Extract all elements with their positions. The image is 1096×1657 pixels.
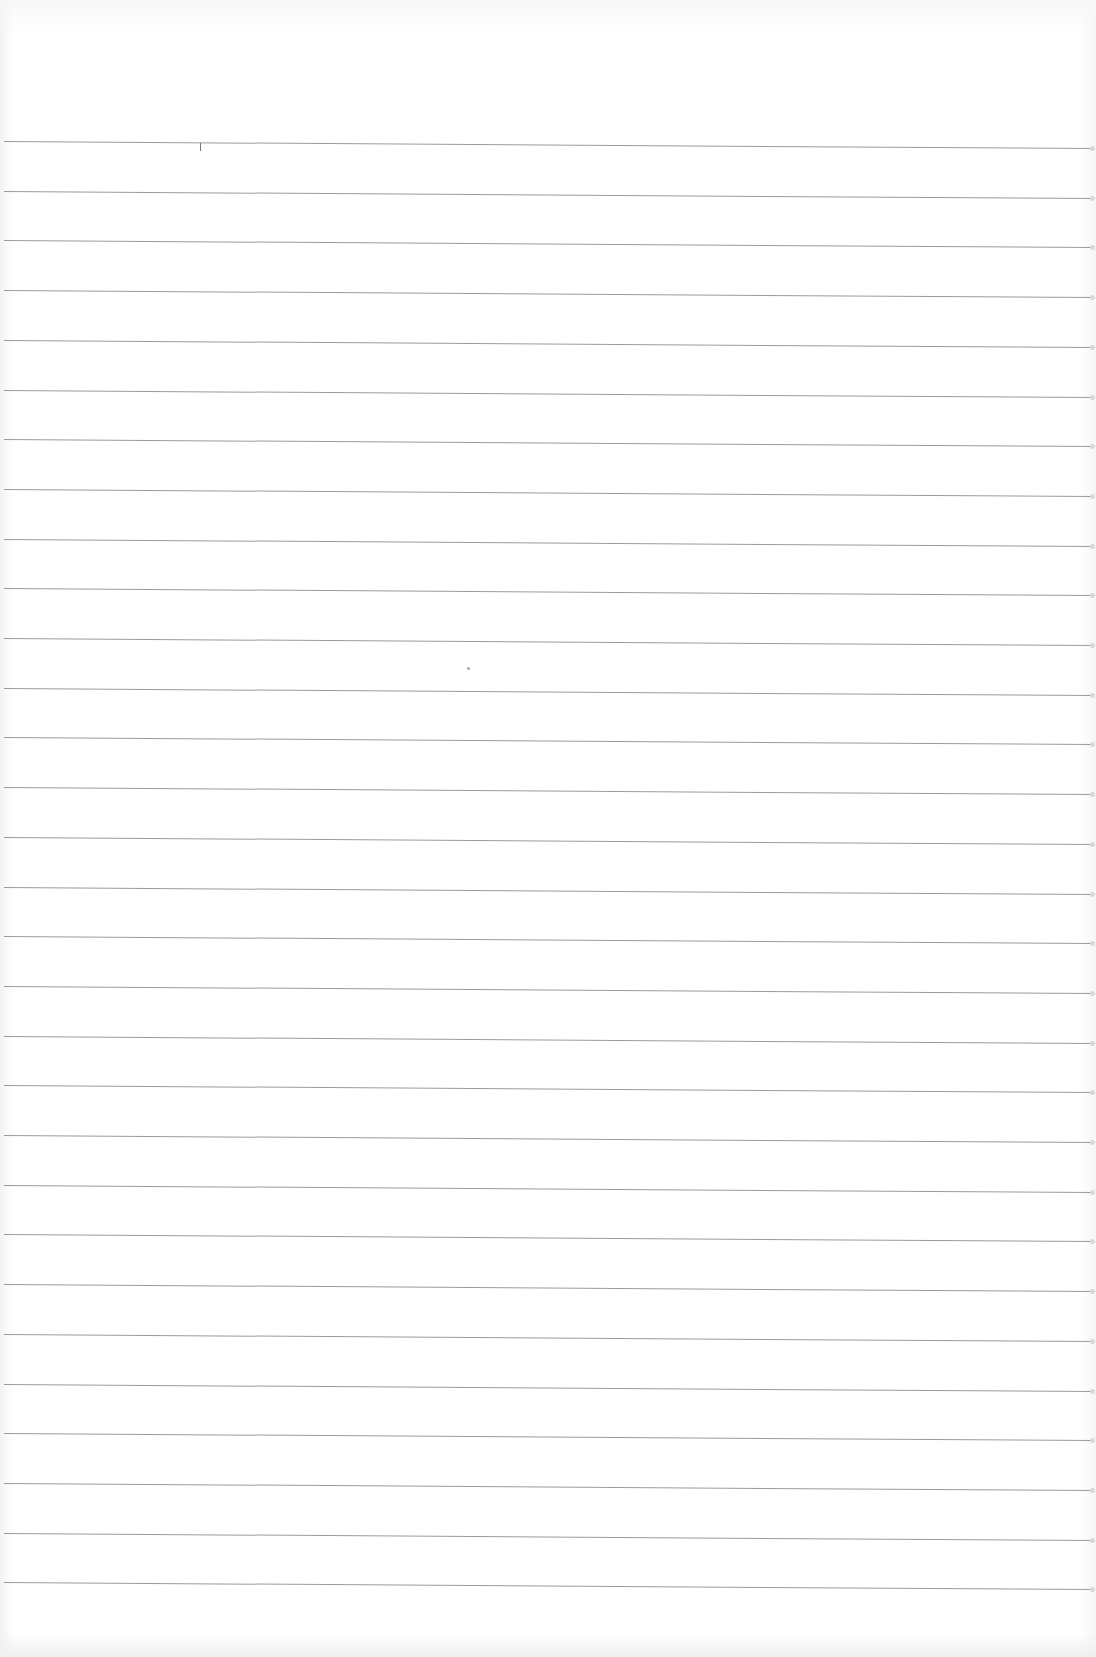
ruled-line <box>4 489 1094 497</box>
ruled-line-end-mark <box>1090 742 1095 747</box>
ruled-line-end-mark <box>1090 444 1095 449</box>
ruled-line <box>4 986 1094 994</box>
ruled-line <box>4 737 1094 745</box>
ruled-line <box>4 1085 1094 1093</box>
scan-bottom-shadow <box>0 1633 1096 1657</box>
ruled-line-end-mark <box>1090 693 1095 698</box>
ruled-line <box>4 439 1094 447</box>
ruled-line <box>4 688 1094 696</box>
ruled-line <box>4 1234 1094 1242</box>
ruled-line <box>4 1284 1094 1292</box>
ruled-line <box>4 191 1094 199</box>
ruled-line-end-mark <box>1090 1041 1095 1046</box>
ruled-line-end-mark <box>1090 991 1095 996</box>
ruled-line <box>4 1433 1094 1441</box>
ruled-line <box>4 240 1094 248</box>
ruled-line <box>4 539 1094 547</box>
ruled-line <box>4 1185 1094 1193</box>
ruled-line <box>4 936 1094 944</box>
ruled-line-end-mark <box>1090 842 1095 847</box>
ruled-line <box>4 837 1094 845</box>
scan-top-shadow <box>0 0 1096 30</box>
ruled-line <box>4 1135 1094 1143</box>
ruled-line-end-mark <box>1090 295 1095 300</box>
ruled-line <box>4 141 1094 149</box>
ruled-line-end-mark <box>1090 941 1095 946</box>
ruled-line <box>4 390 1094 398</box>
paper-speck <box>467 667 470 670</box>
ruled-line <box>4 887 1094 895</box>
ruled-line-end-mark <box>1090 1239 1095 1244</box>
ruled-line <box>4 588 1094 596</box>
pencil-tick-mark <box>200 143 201 151</box>
ruled-line <box>4 1384 1094 1392</box>
ruled-line-end-mark <box>1090 593 1095 598</box>
ruled-line <box>4 1483 1094 1491</box>
ruled-line-end-mark <box>1090 544 1095 549</box>
ruled-line-end-mark <box>1090 494 1095 499</box>
ruled-line <box>4 1582 1094 1590</box>
ruled-line-end-mark <box>1090 1289 1095 1294</box>
ruled-line <box>4 340 1094 348</box>
lined-paper-page <box>0 0 1096 1657</box>
ruled-line <box>4 290 1094 298</box>
ruled-line-end-mark <box>1090 643 1095 648</box>
ruled-line-end-mark <box>1090 1339 1095 1344</box>
ruled-line-end-mark <box>1090 1488 1095 1493</box>
ruled-line-end-mark <box>1090 395 1095 400</box>
ruled-line-end-mark <box>1090 196 1095 201</box>
ruled-line-end-mark <box>1090 146 1095 151</box>
ruled-line <box>4 1334 1094 1342</box>
ruled-line-end-mark <box>1090 345 1095 350</box>
ruled-line-end-mark <box>1090 1438 1095 1443</box>
ruled-line-end-mark <box>1090 245 1095 250</box>
ruled-line-end-mark <box>1090 1587 1095 1592</box>
ruled-line-end-mark <box>1090 1190 1095 1195</box>
ruled-line <box>4 638 1094 646</box>
ruled-line-end-mark <box>1090 892 1095 897</box>
ruled-line-end-mark <box>1090 1090 1095 1095</box>
ruled-line <box>4 787 1094 795</box>
ruled-line <box>4 1533 1094 1541</box>
ruled-line <box>4 1036 1094 1044</box>
ruled-line-end-mark <box>1090 1140 1095 1145</box>
ruled-line-end-mark <box>1090 1538 1095 1543</box>
ruled-line-end-mark <box>1090 1389 1095 1394</box>
ruled-line-end-mark <box>1090 792 1095 797</box>
